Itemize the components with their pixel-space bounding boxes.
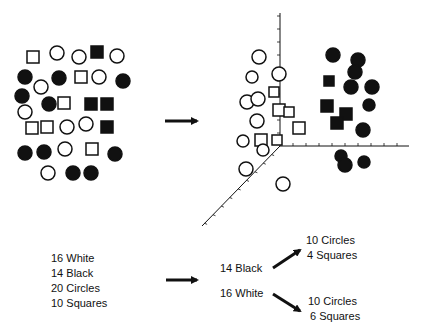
white-squares-count: 6 Squares [308,309,360,324]
black-circle-icon [42,97,56,111]
white-square-icon [75,71,87,83]
white-circle-icon [237,135,249,147]
white-circle-icon [41,166,55,180]
white-circle-icon [252,50,266,64]
white-circle-icon [276,177,290,191]
black-squares-count: 4 Squares [306,248,357,263]
black-circle-icon [356,123,370,137]
black-circle-icon [358,156,370,168]
white-circle-icon [110,49,124,63]
white-square-icon [269,87,279,97]
black-circle-icon [116,74,130,88]
sorted-shape-cluster [237,48,379,191]
black-circle-icon [15,89,29,103]
black-breakdown: 10 Circles 4 Squares [306,233,357,263]
white-label: 16 White [220,286,263,301]
white-square-icon [27,51,39,63]
black-circles-count: 10 Circles [306,233,357,248]
black-circle-icon [363,99,375,111]
total-circles: 20 Circles [51,281,107,296]
black-square-icon [331,117,343,129]
white-circle-icon [272,67,286,81]
unsorted-shape-cluster [15,46,130,180]
black-square-icon [321,100,333,112]
white-circle-icon [50,46,64,60]
arrow-to-black-icon [273,250,300,268]
total-white: 16 White [51,251,107,266]
white-circle-icon [257,144,269,156]
total-squares: 10 Squares [51,296,107,311]
white-circle-icon [246,71,258,83]
black-square-icon [101,121,113,133]
white-circle-icon [72,50,86,64]
black-circle-icon [84,166,98,180]
white-square-icon [26,122,38,134]
black-square-icon [101,98,113,110]
white-square-icon [273,104,285,116]
white-circle-icon [34,80,48,94]
white-square-icon [86,143,98,155]
black-circle-icon [37,145,51,159]
total-black: 14 Black [51,266,107,281]
black-circle-icon [365,80,379,94]
white-circle-icon [251,92,265,106]
3d-axes [202,13,409,226]
white-circle-icon [79,117,93,131]
arrows [165,121,300,311]
black-circle-icon [348,65,362,79]
black-circle-icon [52,71,66,85]
white-breakdown: 10 Circles 6 Squares [308,294,360,324]
white-circle-icon [18,105,32,119]
white-circle-icon [239,162,253,176]
black-circle-icon [326,48,340,62]
white-square-icon [272,135,282,145]
black-label: 14 Black [220,261,262,276]
black-circle-icon [338,158,352,172]
black-circle-icon [66,166,80,180]
white-circles-count: 10 Circles [308,294,360,309]
totals-list: 16 White 14 Black 20 Circles 10 Squares [51,251,107,311]
white-square-icon [41,121,53,133]
black-circle-icon [18,70,32,84]
black-square-icon [85,98,97,110]
black-circle-icon [108,147,122,161]
black-square-icon [324,76,334,86]
white-square-icon [58,97,70,109]
black-circle-icon [344,80,358,94]
white-square-icon [293,122,305,134]
white-square-icon [284,107,294,117]
black-square-icon [91,46,103,58]
arrow-to-white-icon [273,294,300,311]
white-circle-icon [60,120,74,134]
white-circle-icon [92,70,106,84]
white-circle-icon [250,114,264,128]
white-circle-icon [58,142,72,156]
black-circle-icon [18,146,32,160]
